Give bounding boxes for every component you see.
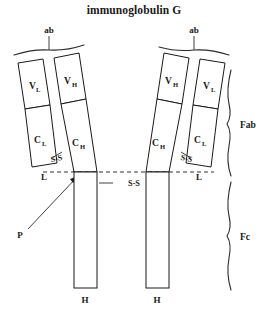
left-ch-subscript: H (80, 143, 86, 150)
fc-brace (227, 182, 231, 290)
right-ch-symbol: C (152, 138, 159, 148)
immunoglobulin-g-diagram: immunoglobulin G ab ab V L C L L V H C H (0, 0, 268, 316)
right-cl-subscript: L (202, 140, 207, 147)
papain-arrow-line (28, 176, 78, 229)
left-heavy-chain-tail-box (74, 172, 97, 288)
antigen-marker-left: ab (14, 25, 84, 55)
right-vl-subscript: L (211, 86, 216, 93)
right-vh-domain-box (157, 53, 189, 104)
right-interchain-ss-label: S-S (180, 153, 194, 164)
left-heavy-chain-arm: V H C H S-S (50, 53, 97, 172)
fab-label: Fab (240, 120, 256, 130)
fab-region-bracket: Fab (227, 70, 256, 176)
right-vh-symbol: V (165, 76, 172, 86)
right-light-chain: V L C L L (186, 59, 225, 182)
fc-region-bracket: Fc (227, 182, 250, 290)
left-vl-subscript: L (36, 86, 41, 93)
left-cl-subscript: L (42, 140, 47, 147)
right-heavy-chain-label: H (153, 295, 160, 305)
fab-brace (227, 70, 231, 176)
left-vl-symbol: V (29, 81, 36, 91)
hinge-region: S-S P (17, 172, 214, 240)
papain-label: P (17, 230, 23, 240)
left-vh-subscript: H (72, 81, 78, 88)
fc-label: Fc (240, 232, 250, 242)
antigen-label-right: ab (189, 25, 199, 35)
left-light-chain-label: L (41, 172, 47, 182)
right-vl-symbol: V (203, 81, 210, 91)
right-ch-subscript: H (160, 143, 166, 150)
antigen-label-left: ab (44, 25, 54, 35)
left-cl-symbol: C (34, 135, 41, 145)
heavy-chain-tails: H H (74, 172, 169, 305)
left-ch-symbol: C (72, 138, 79, 148)
antigen-marker-right: ab (159, 25, 229, 55)
right-cl-symbol: C (194, 135, 201, 145)
right-vh-subscript: H (173, 81, 179, 88)
right-heavy-chain-tail-box (146, 172, 169, 288)
left-vh-symbol: V (64, 76, 71, 86)
right-light-chain-label: L (196, 172, 202, 182)
left-heavy-chain-label: H (81, 295, 88, 305)
left-ch-domain-box (61, 99, 97, 172)
right-heavy-chain-arm: V H C H S-S (146, 53, 194, 172)
left-interchain-ss-label: S-S (50, 153, 64, 164)
page-title: immunoglobulin G (87, 4, 182, 17)
hinge-ss-label: S-S (128, 179, 140, 188)
right-ch-domain-box (146, 99, 182, 172)
